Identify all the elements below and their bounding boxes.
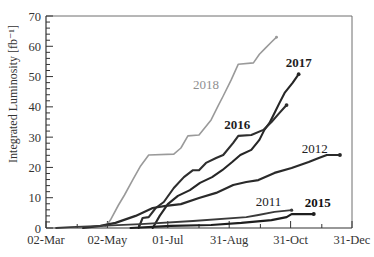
series-line-2016 bbox=[139, 105, 287, 228]
x-tick-label: 01-Jul bbox=[152, 233, 184, 247]
series-end-marker-2018 bbox=[275, 36, 278, 39]
series-end-marker-2017 bbox=[297, 72, 301, 76]
series-end-marker-2011 bbox=[290, 209, 293, 212]
series-label-2016: 2016 bbox=[224, 117, 251, 132]
x-tick-label: 02-Mar bbox=[27, 233, 65, 247]
y-tick-label: 10 bbox=[29, 191, 42, 205]
series-label-2012: 2012 bbox=[302, 141, 328, 156]
series-line-2012 bbox=[83, 155, 340, 228]
x-tick-label: 31-Oct bbox=[273, 233, 308, 247]
series-label-2011: 2011 bbox=[256, 194, 282, 209]
series-line-2015 bbox=[131, 214, 314, 228]
series-label-2015: 2015 bbox=[305, 195, 332, 210]
luminosity-chart: 010203040506070 02-Mar02-May01-Jul31-Aug… bbox=[0, 0, 374, 257]
series-label-2018: 2018 bbox=[193, 77, 219, 92]
x-tick-label: 02-May bbox=[88, 233, 128, 247]
y-tick-label: 30 bbox=[29, 131, 42, 145]
series-end-marker-2016 bbox=[285, 103, 289, 107]
y-tick-label: 70 bbox=[29, 10, 42, 24]
series-line-2018 bbox=[104, 37, 276, 228]
y-tick-label: 20 bbox=[29, 161, 42, 175]
y-tick-label: 40 bbox=[29, 100, 42, 114]
series-label-2017: 2017 bbox=[286, 55, 313, 70]
series-end-marker-2015 bbox=[312, 212, 316, 216]
series-end-marker-2012 bbox=[338, 153, 342, 157]
y-tick-label: 50 bbox=[29, 70, 42, 84]
x-tick-label: 31-Dec bbox=[334, 233, 371, 247]
y-tick-label: 60 bbox=[29, 40, 42, 54]
y-axis-title: Integrated Luminosity [fb⁻¹] bbox=[6, 25, 20, 163]
y-axis-ticks: 010203040506070 bbox=[29, 10, 54, 236]
x-tick-label: 31-Aug bbox=[210, 233, 249, 247]
